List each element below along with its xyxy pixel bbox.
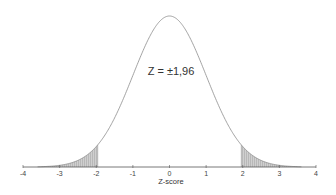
x-axis-label: Z-score — [158, 177, 183, 186]
normal-distribution-chart: -4-3-2-101234 Z = ±1,96 Z-score — [0, 0, 336, 195]
x-tick-label: 3 — [277, 170, 281, 177]
x-tick-label: 2 — [241, 170, 245, 177]
z-critical-annotation: Z = ±1,96 — [148, 65, 195, 77]
x-tick-label: 0 — [168, 170, 172, 177]
density-curve — [38, 16, 302, 167]
x-tick-label: -4 — [20, 170, 26, 177]
x-tick-label: 4 — [314, 170, 318, 177]
x-tick-label: -1 — [130, 170, 136, 177]
x-tick-label: -2 — [93, 170, 99, 177]
x-tick-label: -3 — [57, 170, 63, 177]
x-tick-label: 1 — [204, 170, 208, 177]
